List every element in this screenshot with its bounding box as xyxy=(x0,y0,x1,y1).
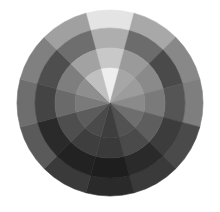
wheel-segment xyxy=(91,28,130,50)
wheel-segment xyxy=(86,10,134,31)
wheel-segment xyxy=(86,175,134,196)
wheel-segment xyxy=(91,156,130,178)
wheel-segment xyxy=(35,84,57,123)
grayscale-color-wheel xyxy=(0,0,220,212)
wheel-segment xyxy=(182,79,203,127)
wheel-segment xyxy=(163,84,185,123)
wheel-ring-core xyxy=(75,68,145,138)
wheel-segment xyxy=(17,79,38,127)
